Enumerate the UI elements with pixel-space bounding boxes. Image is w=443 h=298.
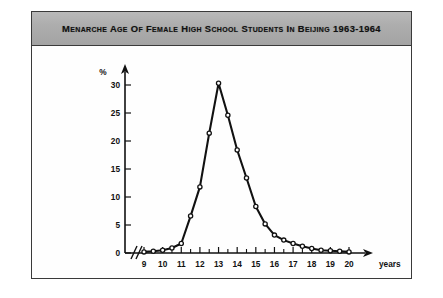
data-point — [170, 246, 174, 250]
data-series-line — [144, 83, 349, 252]
svg-text:20: 20 — [344, 259, 354, 269]
data-point — [338, 249, 342, 253]
svg-text:10: 10 — [158, 259, 168, 269]
data-point — [226, 113, 230, 117]
data-point — [328, 249, 332, 253]
svg-text:25: 25 — [111, 108, 121, 118]
data-point — [207, 131, 211, 135]
svg-text:12: 12 — [195, 259, 205, 269]
data-point — [198, 185, 202, 189]
svg-text:13: 13 — [214, 259, 224, 269]
line-chart: %05101520253091011121314151617181920year… — [32, 46, 413, 278]
data-point — [161, 248, 165, 252]
svg-text:17: 17 — [288, 259, 298, 269]
plot-area: %05101520253091011121314151617181920year… — [32, 46, 413, 278]
data-point — [300, 244, 304, 248]
data-point — [291, 241, 295, 245]
svg-text:10: 10 — [111, 192, 121, 202]
data-point — [188, 214, 192, 218]
data-point — [244, 176, 248, 180]
svg-text:15: 15 — [111, 164, 121, 174]
svg-text:5: 5 — [115, 220, 120, 230]
figure-frame: Menarche Age of Female High School Stude… — [31, 11, 412, 279]
data-point — [254, 204, 258, 208]
svg-text:0: 0 — [115, 248, 120, 258]
svg-text:30: 30 — [111, 80, 121, 90]
svg-text:16: 16 — [270, 259, 280, 269]
data-point — [151, 249, 155, 253]
svg-text:9: 9 — [142, 259, 147, 269]
data-point — [263, 222, 267, 226]
data-point — [282, 238, 286, 242]
svg-text:18: 18 — [307, 259, 317, 269]
svg-text:years: years — [379, 259, 401, 269]
chart-title-banner: Menarche Age of Female High School Stude… — [32, 12, 411, 46]
data-point — [310, 246, 314, 250]
data-point — [319, 248, 323, 252]
data-point — [216, 81, 220, 85]
data-point — [179, 241, 183, 245]
svg-text:11: 11 — [177, 259, 186, 269]
data-point — [142, 250, 146, 254]
svg-text:14: 14 — [233, 259, 243, 269]
svg-text:%: % — [99, 67, 107, 77]
svg-text:15: 15 — [251, 259, 261, 269]
svg-text:19: 19 — [326, 259, 336, 269]
data-point — [347, 250, 351, 254]
page-title: Menarche Age of Female High School Stude… — [62, 23, 381, 34]
data-point — [235, 148, 239, 152]
data-point — [272, 233, 276, 237]
svg-text:20: 20 — [111, 136, 121, 146]
